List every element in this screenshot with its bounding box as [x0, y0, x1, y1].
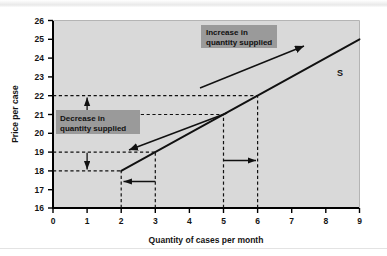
supply-curve-chart: 26 25 24 23 22 21 20 19 18 17 16 0 1 2 3…	[0, 0, 387, 256]
y-tick-label-17: 17	[35, 185, 45, 195]
x-tick-label-5: 5	[221, 216, 226, 226]
y-axis-title: Price per case	[10, 85, 20, 143]
decrease-callout-line1: Decrease in	[60, 114, 105, 123]
supply-curve-label: S	[337, 68, 343, 78]
y-tick-label-22: 22	[35, 91, 45, 101]
y-tick-label-25: 25	[35, 34, 45, 44]
y-tick-label-19: 19	[35, 147, 45, 157]
increase-callout: Increase in quantity supplied	[201, 25, 277, 48]
y-tick-label-18: 18	[35, 166, 45, 176]
x-tick-label-0: 0	[51, 216, 56, 226]
y-tick-label-23: 23	[35, 72, 45, 82]
y-tick-label-16: 16	[35, 203, 45, 213]
y-tick-label-26: 26	[35, 16, 45, 26]
x-tick-label-3: 3	[153, 216, 158, 226]
x-tick-label-4: 4	[187, 216, 192, 226]
x-tick-label-6: 6	[255, 216, 260, 226]
y-tick-label-21: 21	[35, 110, 45, 120]
x-tick-label-1: 1	[85, 216, 90, 226]
increase-callout-line2: quantity supplied	[206, 38, 272, 47]
x-tick-label-7: 7	[289, 216, 294, 226]
x-tick-label-2: 2	[119, 216, 124, 226]
decrease-callout-line2: quantity supplied	[60, 124, 126, 133]
y-tick-label-24: 24	[35, 53, 45, 63]
increase-callout-line1: Increase in	[206, 28, 248, 37]
decrease-callout: Decrease in quantity supplied	[56, 110, 140, 134]
x-axis-title: Quantity of cases per month	[149, 235, 264, 245]
x-tick-label-9: 9	[357, 216, 362, 226]
supply-curve-figure: 26 25 24 23 22 21 20 19 18 17 16 0 1 2 3…	[0, 0, 387, 256]
x-tick-label-8: 8	[323, 216, 328, 226]
y-tick-label-20: 20	[35, 128, 45, 138]
